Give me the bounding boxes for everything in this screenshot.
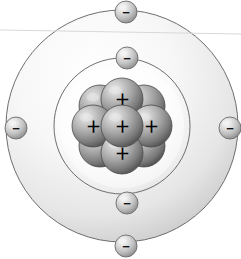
- electron-outer-right[interactable]: −: [219, 117, 241, 139]
- electron-outer-left[interactable]: −: [5, 117, 27, 139]
- electron-charge-label: −: [122, 239, 130, 254]
- atomic-nucleus[interactable]: ＋＋＋＋＋: [72, 78, 172, 174]
- electron-charge-label: −: [122, 5, 130, 20]
- atom-diagram-svg: ＋＋＋＋＋ −−−−−−: [0, 0, 241, 259]
- proton-charge-label: ＋: [144, 118, 159, 135]
- electron-outer-bottom[interactable]: −: [115, 235, 137, 257]
- electron-charge-label: −: [12, 121, 20, 136]
- electron-inner-bottom[interactable]: −: [116, 192, 138, 214]
- electron-charge-label: −: [123, 196, 131, 211]
- proton-sphere: ＋: [101, 105, 143, 147]
- atom-diagram-canvas: ＋＋＋＋＋ −−−−−−: [0, 0, 241, 259]
- electron-inner-top[interactable]: −: [116, 47, 138, 69]
- electron-outer-top[interactable]: −: [115, 1, 137, 23]
- electron-charge-label: −: [226, 121, 234, 136]
- proton-charge-label: ＋: [115, 118, 130, 135]
- proton-charge-label: ＋: [86, 118, 101, 135]
- electron-charge-label: −: [123, 51, 131, 66]
